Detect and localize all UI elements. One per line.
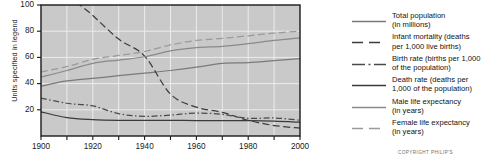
legend-entry: Total population(in millions) <box>352 11 488 29</box>
legend-entry-label: Female life expectancy(in years) <box>392 118 488 136</box>
legend-label-line-1: Female life expectancy <box>392 118 488 127</box>
x-axis-tick-label: 1980 <box>228 143 268 151</box>
x-axis-tick-label: 1940 <box>125 143 165 151</box>
legend-line-sample <box>352 98 386 107</box>
x-axis-tick-label: 2000 <box>280 143 320 151</box>
chart-legend: Total population(in millions)Infant mort… <box>352 11 488 139</box>
x-axis-tick-label: 1900 <box>21 143 61 151</box>
legend-label-line-2: of the population) <box>392 63 488 72</box>
legend-entry: Female life expectancy(in years) <box>352 118 488 136</box>
legend-label-line-2: (in years) <box>392 127 488 136</box>
legend-label-line-1: Total population <box>392 11 488 20</box>
legend-entry-label: Total population(in millions) <box>392 11 488 29</box>
copyright-notice: COPYRIGHT PHILIP'S <box>398 150 453 155</box>
legend-label-line-1: Birth rate (births per 1,000 <box>392 54 488 63</box>
legend-entry: Birth rate (births per 1,000of the popul… <box>352 54 488 72</box>
legend-entry-label: Birth rate (births per 1,000of the popul… <box>392 54 488 72</box>
legend-label-line-2: per 1,000 live births) <box>392 42 488 51</box>
legend-label-line-1: Death rate (deaths per <box>392 75 488 84</box>
x-axis-tick-label: 1920 <box>73 143 113 151</box>
legend-entry: Death rate (deaths per1,000 of the popul… <box>352 75 488 93</box>
legend-entry-label: Infant mortality (deathsper 1,000 live b… <box>392 32 488 50</box>
legend-entry: Infant mortality (deathsper 1,000 live b… <box>352 32 488 50</box>
legend-label-line-1: Male life expectancy <box>392 97 488 106</box>
legend-line-sample <box>352 12 386 21</box>
chart-figure: Units specified in legend 20406080100 19… <box>0 0 490 168</box>
legend-line-sample <box>352 55 386 64</box>
legend-entry-label: Male life expectancy(in years) <box>392 97 488 115</box>
legend-label-line-2: (in years) <box>392 106 488 115</box>
legend-line-sample <box>352 119 386 128</box>
legend-line-sample <box>352 33 386 42</box>
legend-entry-label: Death rate (deaths per1,000 of the popul… <box>392 75 488 93</box>
legend-line-sample <box>352 76 386 85</box>
legend-label-line-2: 1,000 of the population) <box>392 84 488 93</box>
legend-label-line-1: Infant mortality (deaths <box>392 32 488 41</box>
x-axis-tick-label: 1960 <box>176 143 216 151</box>
legend-label-line-2: (in millions) <box>392 20 488 29</box>
legend-entry: Male life expectancy(in years) <box>352 97 488 115</box>
